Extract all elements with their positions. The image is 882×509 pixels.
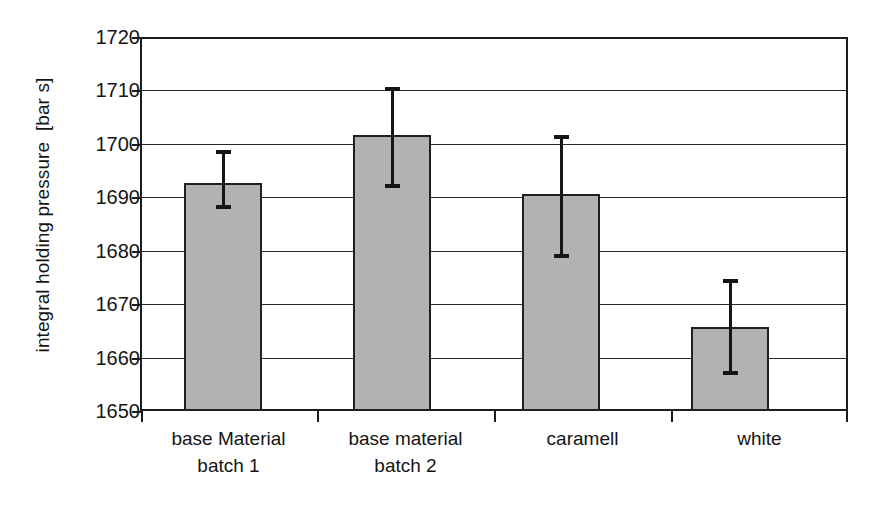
bars-layer [140,37,848,411]
x-category-line-1: base Material [140,425,317,452]
error-bar-white [723,279,738,375]
y-axis-ticks: 1720 1710 1700 1690 1680 1670 1660 1650 [0,0,140,509]
y-tick-label: 1660 [62,348,140,368]
x-category-label: white [671,425,848,452]
y-tick-label: 1720 [62,27,140,47]
error-bar-stem [560,135,563,258]
x-category-label: base material batch 2 [317,425,494,479]
error-bar-stem [391,87,394,188]
y-tick-label: 1680 [62,241,140,261]
error-bar-cap-top [216,150,231,154]
error-bar-stem [729,279,732,375]
x-category-label: base Material batch 1 [140,425,317,479]
error-bar-cap-bottom [385,184,400,188]
x-axis-end-tick [846,411,848,422]
y-tick-label: 1690 [62,187,140,207]
x-axis-separator [317,411,319,422]
error-bar-base-material-batch-1 [216,150,231,209]
error-bar-stem [222,150,225,209]
y-tick-label: 1710 [62,80,140,100]
x-category-line-1: caramell [494,425,671,452]
error-bar-caramell [554,135,569,258]
x-axis-start-tick [141,411,143,422]
x-category-line-2: batch 1 [140,452,317,479]
x-category-line-2: batch 2 [317,452,494,479]
error-bar-cap-top [554,135,569,139]
bar-chart: integral holding pressure [bar s] 1720 1… [0,0,882,509]
error-bar-cap-bottom [723,371,738,375]
error-bar-base-material-batch-2 [385,87,400,188]
x-axis-separator [494,411,496,422]
x-category-line-1: white [671,425,848,452]
y-tick-label: 1650 [62,401,140,421]
x-category-line-1: base material [317,425,494,452]
x-category-label: caramell [494,425,671,452]
bar-base-material-batch-1 [184,183,262,411]
x-axis-separator [671,411,673,422]
y-tick-label: 1700 [62,134,140,154]
error-bar-cap-top [385,87,400,91]
error-bar-cap-bottom [216,205,231,209]
x-axis-labels: base Material batch 1 base material batc… [140,425,848,495]
y-tick-label: 1670 [62,294,140,314]
error-bar-cap-bottom [554,254,569,258]
error-bar-cap-top [723,279,738,283]
y-tick-mark [132,411,141,413]
